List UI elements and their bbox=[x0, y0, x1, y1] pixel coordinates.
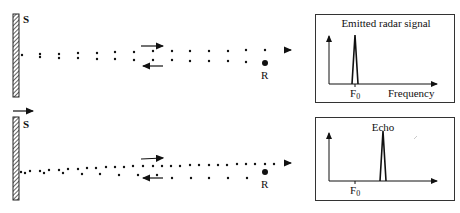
wave-dots-top bbox=[21, 49, 266, 63]
f0-label-bottom: F0 bbox=[350, 184, 360, 198]
receiver-label-top: R bbox=[261, 69, 269, 81]
bottom-scene: S R bbox=[13, 111, 291, 200]
x-axis-label-top: Frequency bbox=[388, 87, 435, 99]
emitted-peak bbox=[352, 35, 358, 84]
echo-peak bbox=[380, 131, 386, 181]
stray-mark bbox=[414, 136, 417, 139]
graph-title-top: Emitted radar signal bbox=[341, 17, 430, 29]
f0-label-top: F0 bbox=[350, 87, 360, 101]
receiver-label-bottom: R bbox=[261, 178, 269, 190]
radar-doppler-diagram: S R Emitted radar signal bbox=[0, 0, 460, 213]
source-mirror-top bbox=[13, 14, 19, 97]
echo-signal-graph: Echo F0 bbox=[316, 118, 455, 201]
receiver-dot-bottom bbox=[262, 169, 268, 175]
source-label-bottom: S bbox=[23, 118, 29, 130]
outgoing-arrow-bottom bbox=[141, 158, 163, 159]
source-mirror-bottom bbox=[13, 117, 19, 200]
wave-dots-bottom bbox=[20, 163, 275, 179]
emitted-signal-graph: Emitted radar signal F0 Frequency bbox=[316, 15, 455, 103]
top-scene: S R bbox=[13, 13, 291, 97]
receiver-dot-top bbox=[262, 60, 268, 66]
source-label-top: S bbox=[23, 13, 29, 25]
